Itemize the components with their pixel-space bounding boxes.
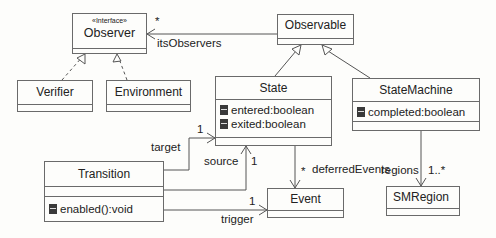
- regions-multiplicity: 1..*: [428, 164, 445, 177]
- attribute-icon: [220, 105, 228, 115]
- attribute-icon: [220, 119, 228, 129]
- state-attributes: entered:boolean exited:boolean: [216, 99, 331, 131]
- state-attribute-exited: exited:boolean: [216, 117, 331, 131]
- its-observers-role: itsObservers: [157, 37, 222, 50]
- verifier-name: Verifier: [18, 85, 92, 99]
- deferred-events-role: deferredEvents: [312, 163, 390, 176]
- observer-name: Observer: [73, 25, 146, 41]
- event-name: Event: [268, 192, 343, 206]
- state-machine-attribute-completed: completed:boolean: [353, 105, 479, 119]
- transition-attributes: [45, 186, 163, 187]
- environment-name: Environment: [107, 85, 190, 99]
- observer-stereotype: «Interface»: [73, 17, 146, 25]
- class-sm-region[interactable]: SMRegion: [386, 186, 460, 216]
- transition-operation-enabled: enabled():void: [45, 202, 163, 216]
- source-multiplicity: 1: [251, 155, 257, 168]
- observable-attributes: [278, 38, 353, 39]
- class-environment[interactable]: Environment: [106, 80, 191, 112]
- class-observer[interactable]: «Interface» Observer: [72, 13, 147, 54]
- class-event[interactable]: Event: [267, 188, 344, 218]
- class-observable[interactable]: Observable: [277, 14, 354, 45]
- class-transition[interactable]: Transition enabled():void: [44, 161, 164, 222]
- verifier-attributes: [18, 104, 92, 105]
- state-attribute-entered: entered:boolean: [216, 103, 331, 117]
- environment-realization-triangle: [113, 54, 121, 62]
- event-attributes: [268, 210, 343, 211]
- state-machine-name: StateMachine: [353, 83, 479, 97]
- sm-region-attributes: [387, 208, 459, 209]
- class-verifier[interactable]: Verifier: [17, 80, 93, 112]
- its-observers-multiplicity: *: [155, 15, 159, 28]
- operation-icon: [49, 204, 57, 214]
- state-operations: [216, 137, 331, 138]
- statemachine-generalization-triangle: [322, 45, 332, 55]
- regions-role: regions: [381, 164, 419, 177]
- state-name: State: [216, 81, 331, 95]
- target-multiplicity: 1: [197, 123, 203, 136]
- attribute-icon: [357, 107, 365, 117]
- statemachine-generalization: [328, 51, 370, 78]
- sm-region-name: SMRegion: [387, 190, 459, 204]
- deferred-events-multiplicity: *: [301, 165, 305, 178]
- state-generalization: [275, 51, 296, 76]
- trigger-multiplicity: 1: [249, 195, 255, 208]
- environment-attributes: [107, 104, 190, 105]
- observer-attributes: [73, 48, 146, 49]
- source-role: source: [204, 155, 239, 168]
- transition-operations: enabled():void: [45, 196, 163, 216]
- state-machine-attributes: completed:boolean: [353, 101, 479, 119]
- observable-name: Observable: [278, 18, 353, 32]
- verifier-realization-triangle: [77, 54, 85, 64]
- target-role: target: [151, 141, 180, 154]
- class-state-machine[interactable]: StateMachine completed:boolean: [352, 78, 480, 131]
- trigger-role: trigger: [221, 213, 254, 226]
- state-machine-operations: [353, 121, 479, 122]
- class-state[interactable]: State entered:boolean exited:boolean: [215, 76, 332, 146]
- transition-name: Transition: [45, 167, 163, 181]
